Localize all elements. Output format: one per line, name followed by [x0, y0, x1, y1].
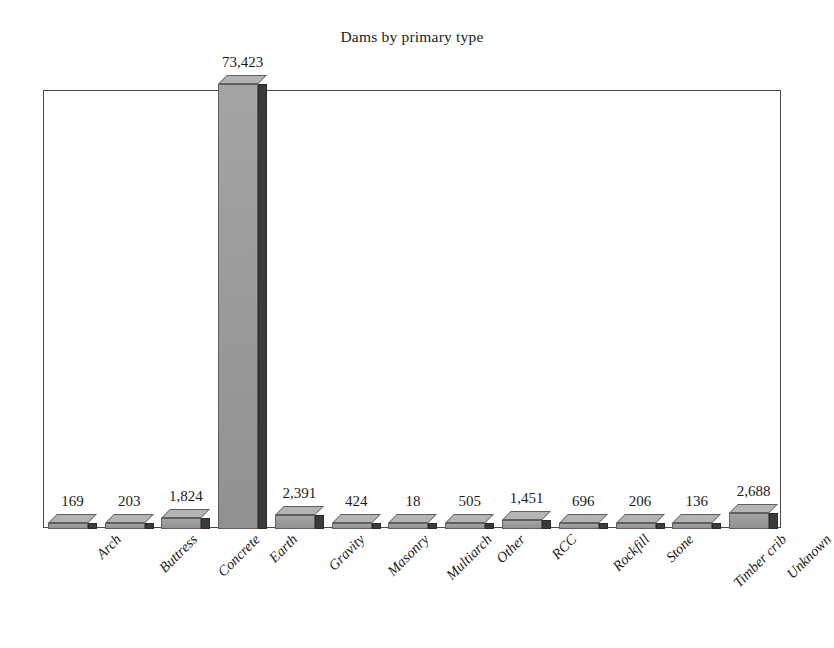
bar-front-face — [48, 523, 88, 529]
bar[interactable] — [559, 514, 608, 529]
x-label-masonry: Masonry — [384, 531, 432, 579]
bar-side-face — [712, 523, 721, 529]
bar-side-face — [428, 523, 437, 529]
bar-group-concrete — [157, 60, 214, 529]
x-label-stone: Stone — [662, 531, 697, 566]
bar-top-face — [445, 514, 494, 523]
bar-group-other — [440, 60, 497, 529]
bars-layer: 1692031,82473,4232,391424185051,45169620… — [43, 60, 781, 529]
bar-group-buttress — [100, 60, 157, 529]
bar-front-face — [332, 523, 372, 529]
bar-front-face — [502, 520, 542, 529]
bar-side-face — [599, 523, 608, 529]
bar-value-label: 2,688 — [737, 483, 771, 500]
bar-side-face — [258, 84, 267, 529]
bar-value-label: 73,423 — [222, 54, 263, 71]
bar-value-label: 1,824 — [169, 488, 203, 505]
bar[interactable] — [275, 506, 324, 529]
bar[interactable] — [445, 514, 494, 529]
bar-side-face — [88, 523, 97, 529]
bar-value-label: 696 — [572, 493, 595, 510]
bar[interactable] — [161, 509, 210, 529]
bar-value-label: 2,391 — [283, 485, 317, 502]
bar-value-label: 206 — [629, 493, 652, 510]
bar-top-face — [729, 504, 778, 513]
bar-side-face — [542, 520, 551, 529]
bar-side-face — [485, 523, 494, 529]
bar-front-face — [161, 518, 201, 529]
bar-side-face — [201, 518, 210, 529]
bar-side-face — [372, 523, 381, 529]
bar-top-face — [218, 75, 267, 84]
x-label-earth: Earth — [265, 531, 300, 566]
bar-value-label: 1,451 — [510, 490, 544, 507]
bar-side-face — [315, 515, 324, 529]
bar-top-face — [332, 514, 381, 523]
bar[interactable] — [616, 514, 665, 529]
x-label-other: Other — [493, 531, 529, 567]
x-label-arch: Arch — [93, 531, 125, 563]
bar-top-face — [502, 511, 551, 520]
bar-value-label: 505 — [459, 493, 482, 510]
bar-group-unknown — [724, 60, 781, 529]
bar[interactable] — [388, 514, 437, 529]
bar-top-face — [388, 514, 437, 523]
bar-side-face — [769, 513, 778, 529]
bar-group-rockfill — [554, 60, 611, 529]
bar-value-label: 169 — [61, 493, 84, 510]
x-label-unknown: Unknown — [783, 531, 834, 582]
bar-front-face — [729, 513, 769, 529]
chart-title: Dams by primary type — [0, 28, 824, 46]
bar[interactable] — [105, 514, 154, 529]
bar[interactable] — [332, 514, 381, 529]
bar[interactable] — [48, 514, 97, 529]
bar-value-label: 424 — [345, 493, 368, 510]
bar-group-rcc — [497, 60, 554, 529]
bar-front-face — [445, 523, 485, 529]
bar-group-earth — [213, 60, 270, 529]
bar[interactable] — [218, 75, 267, 529]
bar-side-face — [656, 523, 665, 529]
bar-value-label: 203 — [118, 493, 141, 510]
x-label-rockfill: Rockfill — [610, 531, 654, 575]
bar-top-face — [559, 514, 608, 523]
x-label-timber-crib: Timber crib — [730, 531, 790, 591]
x-label-rcc: RCC — [548, 531, 580, 563]
bar-top-face — [672, 514, 721, 523]
bar-top-face — [616, 514, 665, 523]
bar-top-face — [48, 514, 97, 523]
bar-front-face — [559, 523, 599, 529]
x-axis-category-labels: ArchButtressConcreteEarthGravityMasonryM… — [43, 531, 781, 641]
bar-front-face — [218, 84, 258, 529]
bar-group-arch — [43, 60, 100, 529]
bar-front-face — [105, 523, 145, 529]
bar-front-face — [388, 523, 428, 529]
bar-top-face — [105, 514, 154, 523]
x-label-multiarch: Multiarch — [443, 531, 496, 584]
bar-group-masonry — [327, 60, 384, 529]
bar-value-label: 136 — [686, 493, 709, 510]
bar-top-face — [275, 506, 324, 515]
bar[interactable] — [502, 511, 551, 529]
bar-group-multiarch — [384, 60, 441, 529]
bar-top-face — [161, 509, 210, 518]
bar[interactable] — [729, 504, 778, 529]
bar-front-face — [616, 523, 656, 529]
x-label-gravity: Gravity — [325, 531, 368, 574]
bar-group-stone — [611, 60, 668, 529]
bar-front-face — [672, 523, 712, 529]
x-label-concrete: Concrete — [214, 531, 263, 580]
bar-group-timber-crib — [667, 60, 724, 529]
bar-group-gravity — [270, 60, 327, 529]
bar-side-face — [145, 523, 154, 529]
bar[interactable] — [672, 514, 721, 529]
bar-front-face — [275, 515, 315, 529]
bar-value-label: 18 — [406, 493, 421, 510]
x-label-buttress: Buttress — [156, 531, 201, 576]
